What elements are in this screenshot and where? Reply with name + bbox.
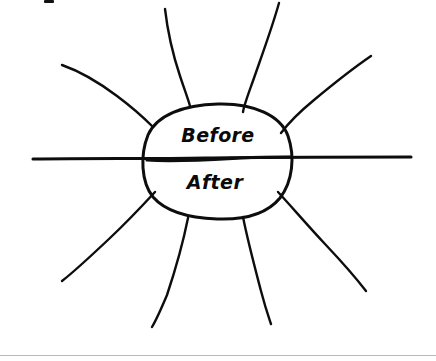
drawing-canvas: Before After — [0, 0, 436, 361]
ray-top-right — [243, 3, 279, 112]
label-before: Before — [181, 124, 254, 146]
ray-upper-left-diag — [62, 65, 152, 126]
starburst-diagram: Before After — [0, 0, 436, 361]
label-after: After — [185, 171, 245, 193]
bottom-divider-rule — [0, 355, 436, 356]
ray-lower-left-diag — [62, 192, 155, 281]
ray-lower-right-diag — [278, 192, 366, 291]
ray-upper-right-diag — [281, 56, 371, 133]
ray-top-left — [165, 9, 190, 106]
ray-bottom-left — [152, 218, 188, 327]
ray-bottom-right — [243, 217, 271, 324]
